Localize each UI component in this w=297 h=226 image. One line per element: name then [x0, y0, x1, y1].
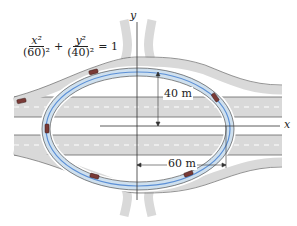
- x-axis-label: x: [284, 118, 290, 131]
- ellipse-road: [42, 68, 234, 190]
- fraction-x-denominator: (60)²: [22, 47, 51, 58]
- semi-minor-label: 40 m: [163, 87, 193, 100]
- plus-sign: +: [54, 40, 63, 53]
- semi-major-label: 60 m: [167, 157, 197, 170]
- ellipse-equation: x² (60)² + y² (40)² = 1: [22, 35, 118, 58]
- y-axis-label: y: [130, 9, 136, 22]
- interchange-diagram: [0, 0, 297, 226]
- equals-one: = 1: [98, 40, 118, 53]
- fraction-x: x² (60)²: [22, 35, 51, 58]
- fraction-y: y² (40)²: [66, 35, 95, 58]
- car-icon: [45, 124, 49, 133]
- fraction-y-denominator: (40)²: [66, 47, 95, 58]
